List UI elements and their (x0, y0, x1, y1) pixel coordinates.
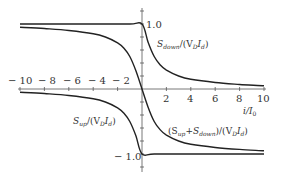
label-s-sum: (Sup+Sdown)/(VDId) (168, 126, 248, 138)
chart: − 10 − 8 − 6 − 4 − 2 2 4 6 8 10 1.0 − 1.… (0, 0, 282, 180)
label-s-up: Sup/(VDId) (73, 116, 116, 128)
tick-label: 2 (163, 93, 169, 104)
tick-label: 6 (212, 93, 218, 104)
label-s-down: Sdown/(VDId) (157, 39, 208, 50)
x-tick-labels-positive: 2 4 6 8 10 (163, 93, 270, 104)
tick-label: 8 (236, 93, 242, 104)
tick-label: − 10 (8, 75, 32, 86)
x-tick-labels-negative: − 10 − 8 − 6 − 4 − 2 (8, 75, 130, 86)
tick-label: − 4 (88, 75, 106, 86)
x-axis-label: i/I0 (243, 106, 256, 117)
tick-label: 4 (187, 93, 193, 104)
tick-label: − 8 (38, 75, 56, 86)
tick-label: 10 (257, 93, 270, 104)
y-tick-label-bottom: − 1.0 (114, 151, 141, 162)
tick-label: − 2 (112, 75, 130, 86)
y-tick-label-top: 1.0 (146, 19, 162, 30)
tick-label: − 6 (63, 75, 81, 86)
